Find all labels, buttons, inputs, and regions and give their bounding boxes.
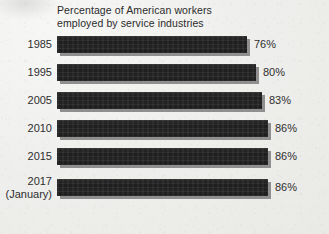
value-label: 83%	[269, 94, 291, 107]
bar-fill	[57, 120, 268, 137]
bar-row: 2010 86%	[0, 120, 329, 143]
bar-chart-plot-area: 1985 76% 1995 80% 2005 83%	[0, 36, 329, 226]
category-label: 2017 (January)	[0, 175, 52, 200]
bar-fill	[57, 64, 256, 81]
category-label: 2015	[0, 150, 52, 163]
bar-2015[interactable]	[57, 148, 268, 168]
bar-1995[interactable]	[57, 64, 256, 84]
bar-fill	[57, 148, 268, 165]
value-label: 86%	[275, 181, 297, 194]
bar-row: 1995 80%	[0, 64, 329, 87]
bar-fill	[57, 92, 262, 109]
value-label: 76%	[254, 38, 276, 51]
chart-title: Percentage of American workers employed …	[57, 4, 297, 29]
bar-2005[interactable]	[57, 92, 262, 112]
bar-row: 2005 83%	[0, 92, 329, 115]
bar-row: 2017 (January) 86%	[0, 179, 329, 202]
bar-fill	[57, 36, 247, 53]
category-label: 1985	[0, 38, 52, 51]
bar-2010[interactable]	[57, 120, 268, 140]
bar-fill	[57, 179, 268, 196]
bar-2017-january[interactable]	[57, 179, 268, 199]
chart-figure: Percentage of American workers employed …	[0, 0, 329, 234]
bar-row: 2015 86%	[0, 148, 329, 171]
value-label: 86%	[275, 150, 297, 163]
category-label: 2010	[0, 122, 52, 135]
value-label: 80%	[263, 66, 285, 79]
category-label: 2005	[0, 94, 52, 107]
bar-row: 1985 76%	[0, 36, 329, 59]
category-label: 1995	[0, 66, 52, 79]
bar-1985[interactable]	[57, 36, 247, 56]
value-label: 86%	[275, 122, 297, 135]
